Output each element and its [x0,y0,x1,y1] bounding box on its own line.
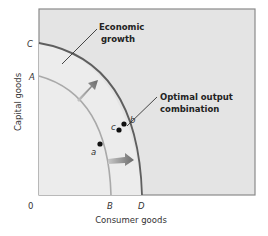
label-origin: 0 [28,201,33,211]
x-axis-label: Consumer goods [95,215,167,225]
label-c-intercept: C [27,39,33,49]
label-d-intercept: D [138,201,145,211]
point-b [121,121,126,126]
label-point-b: b [130,115,135,125]
ppf-chart: a b c C A B D 0 Economic growth Optimal … [0,0,268,236]
econ-growth-line2: growth [101,34,135,44]
optimal-line2: combination [160,104,219,114]
label-b-intercept: B [107,201,113,211]
optimal-line1: Optimal output [160,92,233,102]
point-a [97,141,102,146]
y-axis-label: Capital goods [13,72,23,131]
label-a-intercept: A [28,72,35,82]
label-point-a: a [91,147,96,157]
econ-growth-line1: Economic [99,22,144,32]
point-c [116,127,121,132]
label-point-c: c [111,122,116,132]
